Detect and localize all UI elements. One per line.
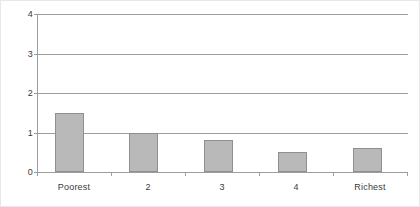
x-tick-label-richest: Richest [354, 182, 385, 192]
x-tick-label-4: 4 [293, 182, 298, 192]
x-tick-label-2: 2 [145, 182, 150, 192]
x-tick-label-3: 3 [219, 182, 224, 192]
bar-chart-figure: 4 3 2 1 0 Poorest 2 3 4 Richest [0, 0, 420, 207]
y-tick-label-0: 0 [5, 168, 33, 177]
x-tick-mark-3 [259, 172, 260, 176]
plot-area [37, 14, 408, 172]
bar-2 [129, 133, 158, 173]
y-tick-mark-2 [34, 93, 38, 94]
bar-richest [353, 148, 382, 172]
y-tick-mark-4 [34, 14, 38, 15]
bar-3 [204, 140, 233, 172]
x-tick-mark-2 [185, 172, 186, 176]
y-tick-label-1: 1 [5, 128, 33, 137]
y-tick-mark-1 [34, 133, 38, 134]
gridline-1 [37, 133, 408, 134]
bar-poorest [55, 113, 84, 172]
gridline-2 [37, 93, 408, 94]
y-tick-label-3: 3 [5, 49, 33, 58]
y-tick-mark-3 [34, 54, 38, 55]
y-tick-label-2: 2 [5, 89, 33, 98]
x-tick-mark-0 [37, 172, 38, 176]
gridline-4 [37, 14, 408, 15]
x-tick-label-poorest: Poorest [58, 182, 90, 192]
x-tick-mark-5 [407, 172, 408, 176]
x-axis-baseline [37, 172, 408, 173]
x-tick-mark-4 [333, 172, 334, 176]
y-tick-label-4: 4 [5, 10, 33, 19]
x-tick-mark-1 [111, 172, 112, 176]
y-axis-tick-labels: 4 3 2 1 0 [1, 1, 33, 207]
bar-4 [278, 152, 307, 172]
gridline-3 [37, 54, 408, 55]
